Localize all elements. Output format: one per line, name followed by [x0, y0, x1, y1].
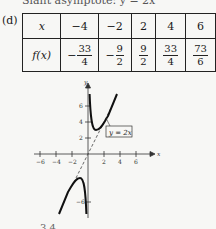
x-tick-label: 6 [134, 158, 138, 165]
part-label: (d) [2, 14, 18, 27]
y-tick-label: 6 [79, 102, 83, 109]
x-cell: 2 [131, 14, 156, 39]
fraction: 92 [139, 43, 147, 68]
fraction: 334 [77, 43, 92, 68]
values-table: x −4 −2 2 4 6 f(x) −334 −92 92 334 736 [22, 13, 216, 72]
fx-row-header: f(x) [23, 39, 61, 72]
fx-cell: 92 [131, 39, 156, 72]
x-cell: 6 [186, 14, 216, 39]
y-tick-label: 2 [79, 134, 83, 141]
x-axis-label: x [157, 150, 161, 157]
cropped-footer-text: 3 4 [40, 222, 56, 229]
x-tick-label: −2 [68, 158, 77, 165]
y-tick-label: −6 [76, 198, 85, 205]
x-row-header: x [23, 14, 61, 39]
x-axis-arrow-icon [150, 152, 155, 157]
fx-cell: −334 [61, 39, 98, 72]
x-cell: −4 [61, 14, 98, 39]
asymptote-label: y = 2x [108, 129, 132, 137]
fx-cell: 736 [186, 39, 216, 72]
fx-cell: −92 [98, 39, 131, 72]
annotation-leader [106, 118, 110, 126]
fx-row: f(x) −334 −92 92 334 736 [23, 39, 216, 72]
fraction: 736 [193, 43, 208, 68]
fraction: 92 [116, 43, 124, 68]
x-cell: 4 [156, 14, 186, 39]
y-axis-label: y [83, 78, 88, 86]
curve-right-branch [90, 94, 117, 130]
y-tick-label: 4 [79, 118, 83, 125]
cropped-heading-text: Slant asymptote: y = 2x [22, 0, 155, 7]
x-row: x −4 −2 2 4 6 [23, 14, 216, 39]
curve-left-branch [59, 178, 86, 214]
x-tick-label: 4 [118, 158, 122, 165]
fraction: 334 [163, 43, 178, 68]
x-tick-label: −6 [36, 158, 45, 165]
x-tick-label: 2 [102, 158, 106, 165]
fx-cell: 334 [156, 39, 186, 72]
x-tick-label: −4 [52, 158, 61, 165]
function-graph: −6 −4 −2 2 4 6 6 4 2 −6 x y y = 2x [0, 78, 216, 223]
x-cell: −2 [98, 14, 131, 39]
